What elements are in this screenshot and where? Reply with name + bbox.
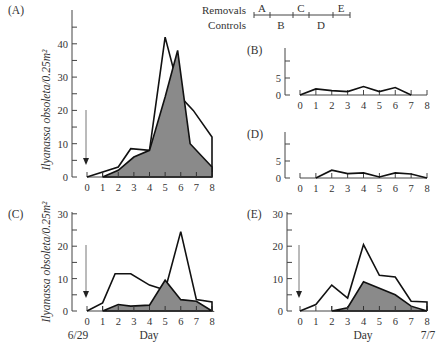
y-tick-label: 0 [276, 90, 281, 101]
x-tick-label: 2 [116, 316, 121, 327]
y-tick-label: 30 [58, 209, 69, 220]
x-tick-label: 4 [361, 316, 367, 327]
panel-e: (E)0102030012345678 [247, 208, 430, 327]
y-tick-label: 5 [276, 156, 281, 167]
x-tick-label: 4 [147, 316, 153, 327]
y-tick-label: 10 [273, 274, 284, 285]
y-tick-label: 0 [63, 172, 68, 183]
x-tick-label: 0 [297, 100, 302, 111]
x-tick-label: 1 [313, 183, 318, 194]
legend-seg-b: B [277, 19, 284, 31]
ylabel-bottom: Ilyanassa obsoleta/0.25m² [40, 201, 53, 324]
x-tick-label: 3 [345, 183, 350, 194]
legend-removals-label: Removals [202, 4, 246, 16]
x-tick-label: 2 [329, 100, 334, 111]
legend: Removals Controls A C E B D [202, 2, 350, 31]
legend-seg-d: D [317, 19, 325, 31]
panel-label: (A) [8, 4, 24, 17]
y-tick-label: 0 [63, 306, 68, 317]
panel-label: (E) [247, 208, 262, 221]
x-tick-label: 5 [377, 100, 382, 111]
series-control [316, 170, 427, 178]
x-tick-label: 2 [116, 182, 121, 193]
y-tick-label: 20 [58, 105, 69, 116]
x-tick-label: 3 [345, 316, 350, 327]
xlabel-day-c: Day [139, 329, 158, 342]
x-tick-label: 6 [393, 316, 398, 327]
x-tick-label: 8 [424, 183, 429, 194]
legend-seg-c: C [297, 2, 304, 14]
x-tick-label: 1 [313, 316, 318, 327]
x-tick-label: 2 [329, 183, 334, 194]
series-open [87, 232, 212, 311]
x-tick-label: 7 [409, 100, 414, 111]
x-tick-label: 3 [345, 100, 350, 111]
legend-seg-a: A [258, 2, 266, 14]
y-tick-label: 0 [278, 306, 283, 317]
panel-d: (D)05012345678 [247, 128, 430, 194]
x-tick-label: 5 [377, 183, 382, 194]
x-tick-label: 6 [393, 100, 398, 111]
x-tick-label: 1 [313, 100, 318, 111]
x-tick-label: 8 [424, 100, 429, 111]
x-tick-label: 5 [377, 316, 382, 327]
series-control [300, 87, 411, 96]
y-tick-label: 40 [58, 39, 69, 50]
x-tick-label: 0 [84, 182, 89, 193]
x-tick-label: 7 [194, 182, 199, 193]
x-tick-label: 4 [147, 182, 153, 193]
x-tick-label: 7 [194, 316, 199, 327]
x-tick-label: 8 [209, 182, 214, 193]
end-date: 7/7 [421, 329, 436, 341]
x-tick-label: 0 [84, 316, 89, 327]
x-tick-label: 6 [178, 182, 183, 193]
panel-label: (B) [247, 44, 263, 57]
legend-controls-label: Controls [208, 19, 246, 31]
x-tick-label: 3 [131, 316, 136, 327]
x-tick-label: 2 [329, 316, 334, 327]
panel-b: (B)05012345678 [247, 44, 430, 111]
y-tick-label: 10 [58, 274, 69, 285]
x-tick-label: 4 [361, 100, 367, 111]
x-tick-label: 0 [297, 316, 302, 327]
panel-a: (A)010203040012345678 [8, 4, 215, 193]
y-tick-label: 30 [58, 72, 69, 83]
x-tick-label: 0 [297, 183, 302, 194]
y-tick-label: 5 [276, 73, 281, 84]
x-tick-label: 1 [100, 316, 105, 327]
y-tick-label: 0 [276, 173, 281, 184]
start-date: 6/29 [68, 329, 89, 341]
panel-c: (C)0102030012345678 [8, 208, 215, 327]
y-tick-label: 10 [58, 139, 69, 150]
x-tick-label: 4 [361, 183, 367, 194]
y-tick-label: 20 [273, 241, 284, 252]
chart-figure: Removals Controls A C E B D Ilyanassa ob… [0, 0, 443, 361]
x-tick-label: 1 [100, 182, 105, 193]
x-tick-label: 5 [163, 182, 168, 193]
x-tick-label: 8 [209, 316, 214, 327]
x-tick-label: 3 [131, 182, 136, 193]
y-tick-label: 20 [58, 241, 69, 252]
ylabel-top: Ilyanassa obsoleta/0.25m² [40, 49, 53, 172]
panel-label: (C) [8, 208, 24, 221]
y-tick-label: 30 [273, 209, 284, 220]
panel-label: (D) [247, 128, 263, 141]
x-tick-label: 7 [409, 183, 414, 194]
x-tick-label: 5 [163, 316, 168, 327]
x-tick-label: 7 [409, 316, 414, 327]
legend-seg-e: E [338, 2, 345, 14]
x-tick-label: 6 [393, 183, 398, 194]
x-tick-label: 8 [424, 316, 429, 327]
x-tick-label: 6 [178, 316, 183, 327]
xlabel-day-e: Day [353, 329, 372, 342]
